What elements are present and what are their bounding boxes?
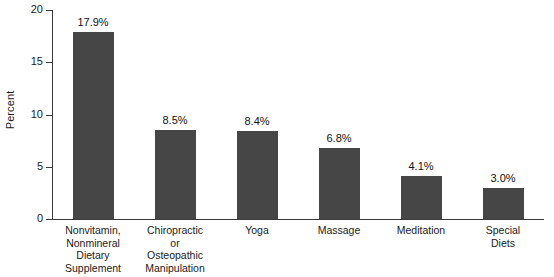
y-axis-tick-label: 10 (31, 108, 43, 120)
bar: 4.1% (401, 176, 442, 219)
y-axis-tick-label: 0 (37, 212, 43, 224)
x-axis-category-label-line: or (134, 237, 216, 250)
x-axis-category-label-line: Special (462, 224, 544, 237)
bar: 3.0% (483, 188, 524, 219)
bar: 8.5% (155, 130, 196, 219)
y-axis-tick-mark (46, 115, 52, 116)
x-axis-category-label-line: Nonmineral (52, 237, 134, 250)
y-axis-tick-label: 15 (31, 55, 43, 67)
x-axis-category-label-line: Manipulation (134, 262, 216, 275)
bar: 17.9% (73, 32, 114, 219)
x-axis-category-label: Yoga (216, 224, 298, 237)
x-axis-category-label-line: Supplement (52, 262, 134, 275)
x-axis-line (52, 219, 544, 220)
x-axis-category-label-line: Dietary (52, 249, 134, 262)
x-axis-category-label: Meditation (380, 224, 462, 237)
x-axis-category-label: SpecialDiets (462, 224, 544, 249)
x-axis-category-label-line: Nonvitamin, (52, 224, 134, 237)
x-axis-category-label: ChiropracticorOsteopathicManipulation (134, 224, 216, 274)
y-axis-tick-label: 5 (37, 160, 43, 172)
bar-value-label: 8.4% (244, 115, 269, 127)
bar-chart: Percent 05101520 17.9%8.5%8.4%6.8%4.1%3.… (0, 0, 554, 277)
bar-value-label: 3.0% (490, 172, 515, 184)
y-axis-line (52, 10, 53, 219)
bar-value-label: 8.5% (162, 114, 187, 126)
bar-value-label: 6.8% (326, 132, 351, 144)
x-axis-category-label-line: Chiropractic (134, 224, 216, 237)
bar: 8.4% (237, 131, 278, 219)
y-axis-tick-mark (46, 167, 52, 168)
y-axis-title: Percent (0, 0, 20, 220)
y-axis-tick-mark (46, 219, 52, 220)
bar-value-label: 17.9% (77, 16, 108, 28)
y-axis-tick-mark (46, 10, 52, 11)
x-axis-category-label-line: Diets (462, 237, 544, 250)
x-axis-category-label-line: Meditation (380, 224, 462, 237)
x-axis-category-label: Massage (298, 224, 380, 237)
y-axis-tick-mark (46, 62, 52, 63)
y-axis-tick-label: 20 (31, 3, 43, 15)
bar-value-label: 4.1% (408, 160, 433, 172)
x-axis-category-label-line: Massage (298, 224, 380, 237)
y-axis-title-text: Percent (4, 91, 16, 130)
plot-area: 05101520 17.9%8.5%8.4%6.8%4.1%3.0% (52, 10, 544, 219)
x-axis-category-label: Nonvitamin,NonmineralDietarySupplement (52, 224, 134, 274)
x-axis-category-label-line: Osteopathic (134, 249, 216, 262)
x-axis-category-label-line: Yoga (216, 224, 298, 237)
bar: 6.8% (319, 148, 360, 219)
